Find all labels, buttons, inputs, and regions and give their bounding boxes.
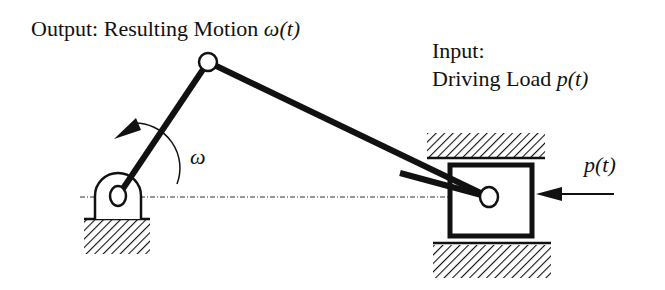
omega-label: ω: [190, 144, 206, 170]
omega-arrowhead-icon: [114, 118, 141, 139]
force-arrowhead-icon: [536, 187, 562, 201]
input-label-line1: Input:: [432, 38, 485, 64]
ground-support-left: [84, 219, 150, 254]
crank-pivot-joint: [110, 186, 126, 206]
input-label-line2: Driving Load p(t): [432, 66, 588, 92]
force-label: p(t): [584, 152, 616, 178]
top-joint: [199, 53, 217, 71]
guide-top: [427, 133, 545, 158]
omega-arc: [134, 123, 180, 184]
guide-bottom: [433, 243, 551, 278]
slider-pin-joint: [480, 187, 498, 207]
slider-crank-diagram: [0, 0, 665, 290]
output-symbol: ω(t): [264, 16, 300, 41]
output-label: Output: Resulting Motion ω(t): [31, 16, 300, 42]
input-symbol: p(t): [557, 66, 589, 91]
